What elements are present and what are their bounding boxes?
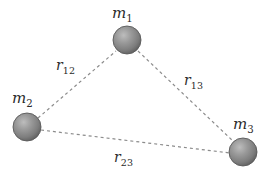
mass-spheres-group — [13, 26, 257, 166]
distance-line-r13 — [138, 51, 234, 142]
mass-label-m2: m2 — [12, 91, 33, 109]
mass-label-m1: m1 — [112, 6, 133, 24]
three-body-diagram: m1 m2 m3 r12 r13 r23 — [0, 0, 275, 175]
mass-sphere-m2 — [13, 113, 41, 141]
mass-sphere-m1 — [113, 26, 141, 54]
mass-sphere-m3 — [229, 138, 257, 166]
distance-line-r12 — [38, 51, 116, 118]
distance-line-r23 — [41, 130, 230, 153]
diagram-canvas — [0, 0, 275, 175]
distance-label-r23: r23 — [114, 150, 133, 167]
distance-label-r12: r12 — [56, 58, 75, 75]
mass-label-m3: m3 — [233, 117, 254, 135]
distance-label-r13: r13 — [184, 73, 203, 90]
